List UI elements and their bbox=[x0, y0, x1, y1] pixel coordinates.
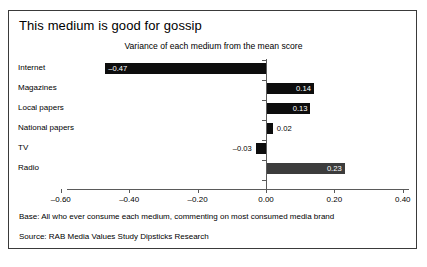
category-label: Radio bbox=[18, 163, 39, 173]
category-label: Local papers bbox=[18, 103, 64, 113]
chart-bar-row: Magazines0.14 bbox=[9, 79, 418, 99]
bar-value-label: –0.47 bbox=[108, 63, 127, 74]
x-axis-tick-label: 0.00 bbox=[246, 195, 286, 205]
zero-axis-tick bbox=[262, 60, 266, 61]
x-axis-tick bbox=[61, 189, 62, 193]
zero-axis-tick bbox=[262, 100, 266, 101]
chart-subtitle: Variance of each medium from the mean sc… bbox=[9, 41, 418, 52]
bar-value-label: 0.13 bbox=[286, 103, 307, 114]
bar-value-label: 0.14 bbox=[290, 83, 311, 94]
chart-bar bbox=[105, 63, 266, 74]
chart-bar-row: Internet–0.47 bbox=[9, 59, 418, 79]
chart-bar-row: TV–0.03 bbox=[9, 139, 418, 159]
zero-axis-tick bbox=[262, 160, 266, 161]
bar-value-label: –0.03 bbox=[230, 143, 252, 154]
bar-value-label: 0.23 bbox=[321, 163, 342, 174]
category-label: TV bbox=[18, 143, 28, 153]
chart-bar bbox=[266, 123, 273, 134]
category-label: Internet bbox=[18, 63, 45, 73]
x-axis-tick-label: 0.20 bbox=[314, 195, 354, 205]
x-axis-tick bbox=[403, 189, 404, 193]
zero-axis-tick bbox=[262, 140, 266, 141]
x-axis-tick-label: –0.60 bbox=[41, 195, 81, 205]
x-axis-tick bbox=[334, 189, 335, 193]
x-axis-tick bbox=[198, 189, 199, 193]
chart-bar bbox=[256, 143, 266, 154]
page-title: This medium is good for gossip bbox=[19, 18, 202, 33]
zero-axis-line bbox=[266, 59, 267, 189]
category-label: Magazines bbox=[18, 83, 57, 93]
chart-plot-area: Internet–0.47Magazines0.14Local papers0.… bbox=[9, 59, 418, 189]
zero-axis-tick bbox=[262, 120, 266, 121]
footnote-base: Base: All who ever consume each medium, … bbox=[19, 211, 334, 222]
x-axis-tick-label: 0.40 bbox=[383, 195, 423, 205]
x-axis-tick bbox=[266, 189, 267, 193]
category-label: National papers bbox=[18, 123, 74, 133]
footnote-source: Source: RAB Media Values Study Dipsticks… bbox=[19, 231, 209, 242]
zero-axis-tick bbox=[262, 80, 266, 81]
chart-bar-row: Local papers0.13 bbox=[9, 99, 418, 119]
chart-bar-row: National papers0.02 bbox=[9, 119, 418, 139]
x-axis-tick-label: –0.20 bbox=[178, 195, 218, 205]
x-axis-line bbox=[67, 189, 409, 190]
chart-bar-row: Radio0.23 bbox=[9, 159, 418, 179]
zero-axis-tick bbox=[262, 180, 266, 181]
bar-value-label: 0.02 bbox=[277, 123, 292, 134]
slide-frame: This medium is good for gossip Variance … bbox=[8, 10, 417, 249]
x-axis-tick-label: –0.40 bbox=[109, 195, 149, 205]
x-axis-tick bbox=[129, 189, 130, 193]
